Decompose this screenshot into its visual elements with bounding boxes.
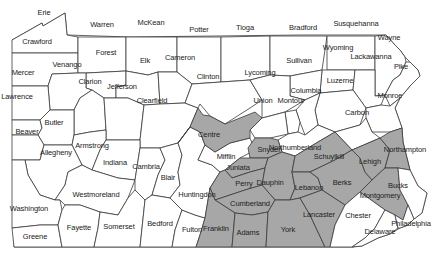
county-label-union: Union [253,97,272,105]
county-label-fulton: Fulton [182,226,202,234]
county-label-erie: Erie [38,9,51,17]
county-label-butler: Butler [45,119,64,127]
county-label-bucks: Bucks [388,182,408,190]
pennsylvania-county-map: ErieCrawfordWarrenMcKeanPotterTiogaBradf… [0,0,438,258]
county-label-pike: Pike [394,63,408,71]
county-label-mifflin: Mifflin [217,153,236,161]
county-label-forest: Forest [96,49,117,57]
county-label-somerset: Somerset [103,223,134,231]
county-borders [0,0,438,258]
county-label-lackawanna: Lackawanna [350,53,391,61]
county-label-monroe: Monroe [378,92,403,100]
county-label-lycoming: Lycoming [244,69,275,77]
county-label-columbia: Columbia [291,87,322,95]
county-label-clearfield: Clearfield [137,97,168,105]
county-label-perry: Perry [235,180,252,188]
county-label-huntingdon: Huntingdon [178,191,215,199]
county-label-greene: Greene [23,233,47,241]
county-label-york: York [281,226,295,234]
county-label-susquehanna: Susquehanna [333,20,378,28]
county-label-blair: Blair [161,174,176,182]
county-label-lebanon: Lebanon [295,184,324,192]
county-label-dauphin: Dauphin [256,179,283,187]
county-label-wyoming: Wyoming [323,44,354,52]
county-label-cambria: Cambria [132,163,160,171]
county-label-lehigh: Lehigh [359,158,381,166]
county-label-cameron: Cameron [165,54,195,62]
county-label-bradford: Bradford [289,24,317,32]
county-label-fayette: Fayette [67,224,91,232]
county-label-lancaster: Lancaster [303,211,335,219]
county-label-jefferson: Jefferson [107,83,137,91]
county-label-juniata: Juniata [226,164,250,172]
county-label-washington: Washington [10,205,48,213]
county-label-adams: Adams [237,229,260,237]
county-erie [12,13,78,53]
county-label-wayne: Wayne [378,34,401,42]
county-label-beaver: Beaver [15,128,38,136]
county-label-luzerne: Luzerne [327,77,353,85]
county-label-northumberland: Northumberland [269,144,321,152]
county-label-warren: Warren [90,21,114,29]
county-label-clarion: Clarion [78,78,101,86]
county-mercer [12,86,50,120]
county-label-potter: Potter [189,26,208,34]
county-label-philadelphia: Philadelphia [391,220,431,228]
county-label-crawford: Crawford [22,38,52,46]
county-label-berks: Berks [333,179,352,187]
county-label-chester: Chester [345,212,371,220]
county-label-montgomery: Montgomery [360,192,401,200]
county-label-venango: Venango [53,61,82,69]
county-label-elk: Elk [140,57,150,65]
county-label-westmoreland: Westmoreland [72,191,119,199]
county-label-carbon: Carbon [345,109,369,117]
county-label-delaware: Delaware [365,228,396,236]
county-label-franklin: Franklin [203,225,229,233]
county-label-indiana: Indiana [103,159,127,167]
county-label-sullivan: Sullivan [286,57,311,65]
county-label-lawrence: Lawrence [1,93,33,101]
county-label-montour: Montour [278,97,305,105]
county-label-clinton: Clinton [197,73,220,81]
county-label-cumberland: Cumberland [230,200,270,208]
county-label-allegheny: Allegheny [40,149,72,157]
county-label-bedford: Bedford [147,220,173,228]
county-label-tioga: Tioga [236,24,254,32]
county-label-schuylkill: Schuylkill [314,153,344,161]
county-label-mercer: Mercer [12,69,35,77]
county-label-centre: Centre [198,131,220,139]
county-label-armstrong: Armstrong [75,142,109,150]
county-label-mckean: McKean [138,19,165,27]
county-label-northampton: Northampton [384,146,426,154]
